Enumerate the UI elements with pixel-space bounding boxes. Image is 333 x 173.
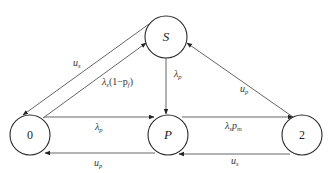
state-diagram: S 0 P 2 us λs(1−pf) λp λp λspm up up us: [0, 0, 333, 173]
node-p: P: [148, 115, 188, 155]
node-0-label: 0: [27, 128, 33, 142]
edge-2-to-s: [187, 43, 293, 117]
label-0-to-s: λs(1−pf): [101, 76, 133, 88]
edge-s-to-0: [23, 24, 149, 115]
label-p-to-2: λspm: [224, 120, 242, 132]
label-s-to-p: λp: [173, 68, 182, 80]
node-2-label: 2: [299, 128, 305, 142]
label-s-to-0: us: [73, 57, 81, 69]
node-p-label: P: [163, 127, 172, 142]
node-2: 2: [282, 115, 322, 155]
label-p-to-0: up: [94, 157, 103, 169]
label-2-to-p: us: [231, 155, 239, 167]
node-s-label: S: [163, 29, 170, 44]
node-0: 0: [10, 115, 50, 155]
node-s: S: [145, 16, 187, 58]
label-0-to-p: λp: [94, 121, 103, 133]
